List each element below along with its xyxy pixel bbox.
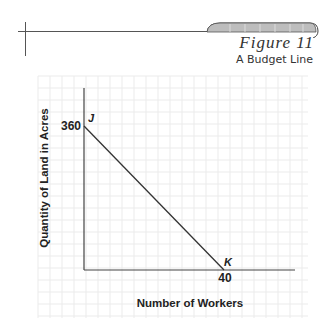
budget-line-chart: 360 40 J K Number of Workers Quantity of… [0,0,328,333]
grid [38,76,308,318]
x-tick-label: 40 [218,271,232,285]
x-axis-title: Number of Workers [137,297,244,309]
y-axis-title: Quantity of Land in Acres [38,108,50,248]
point-label-k: K [224,256,233,268]
y-tick-label: 360 [61,119,81,133]
point-label-j: J [88,112,95,124]
